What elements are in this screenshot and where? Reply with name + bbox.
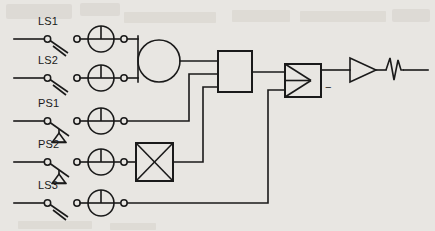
- comparator-wedge-lower: [285, 81, 311, 98]
- input-row-ls3: LS3: [14, 90, 285, 220]
- summing-junction-circle: [138, 40, 180, 82]
- ps2-label: PS2: [38, 138, 59, 150]
- ls3-output-terminal: [121, 200, 127, 206]
- resistor-zigzag: [386, 58, 404, 80]
- processing-block-body: [218, 51, 252, 92]
- ls1-output-terminal: [121, 36, 127, 42]
- amplifier-block: [350, 58, 386, 82]
- processing-block: [218, 51, 285, 92]
- input-row-ps1: PS1: [14, 74, 218, 143]
- comparator-wedge-upper: [285, 64, 311, 81]
- ps1-label: PS1: [38, 97, 59, 109]
- schematic-diagram: LS1 LS2: [0, 0, 435, 231]
- ls3-route-to-comparator: [128, 90, 286, 203]
- input-row-ls1: LS1: [14, 15, 138, 56]
- input-row-ls2: LS2: [14, 54, 138, 95]
- ls3-label: LS3: [38, 179, 58, 191]
- comparator-minus-marking: −: [325, 81, 332, 93]
- ps1-output-terminal: [121, 118, 127, 124]
- crossed-block-route-to-processing: [173, 87, 218, 162]
- input-row-ps2: PS2: [14, 138, 136, 184]
- summing-junction-block: [138, 40, 218, 82]
- amplifier-triangle: [350, 58, 376, 82]
- ps2-output-terminal: [121, 159, 127, 165]
- ls1-label: LS1: [38, 15, 58, 27]
- comparator-block: −: [285, 64, 350, 97]
- ls2-label: LS2: [38, 54, 58, 66]
- crossed-block: [136, 87, 218, 181]
- schematic-canvas: LS1 LS2: [0, 0, 435, 231]
- ps1-route-to-processing-block: [128, 74, 219, 121]
- ls2-output-terminal: [121, 75, 127, 81]
- resistor-block: [386, 58, 428, 80]
